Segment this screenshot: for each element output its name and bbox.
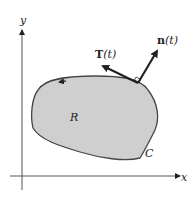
tangent-label: T(t) — [95, 49, 116, 60]
diagram-svg — [0, 0, 196, 205]
region-r — [32, 76, 158, 160]
normal-param: (t) — [165, 34, 178, 47]
normal-symbol: n — [157, 34, 165, 47]
tangent-param: (t) — [103, 48, 116, 61]
curve-label: C — [145, 148, 153, 159]
region-label: R — [70, 112, 78, 123]
tangent-symbol: T — [95, 48, 103, 61]
x-axis-label: x — [181, 172, 187, 183]
normal-label: n(t) — [157, 35, 178, 46]
y-axis-label: y — [20, 15, 26, 26]
normal-vector — [138, 51, 157, 83]
diagram-canvas: y x R C T(t) n(t) — [0, 0, 196, 205]
